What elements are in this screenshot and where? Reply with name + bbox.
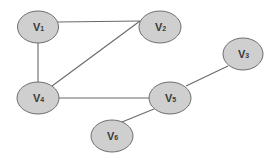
edge-v5-v6 <box>122 109 154 122</box>
node-v3: V3 <box>223 38 263 70</box>
node-v5: V5 <box>149 82 191 114</box>
node-v1: V1 <box>18 11 59 43</box>
edge-v5-v3 <box>186 66 228 86</box>
node-v4: V4 <box>17 82 59 114</box>
edge-v4-v2 <box>52 21 140 86</box>
graph-diagram: V1 V2 V3 V4 V5 V6 <box>0 0 277 158</box>
edges <box>38 21 228 122</box>
node-v6: V6 <box>91 120 133 152</box>
node-v2: V2 <box>139 11 181 43</box>
edge-v1-v2 <box>58 21 140 22</box>
